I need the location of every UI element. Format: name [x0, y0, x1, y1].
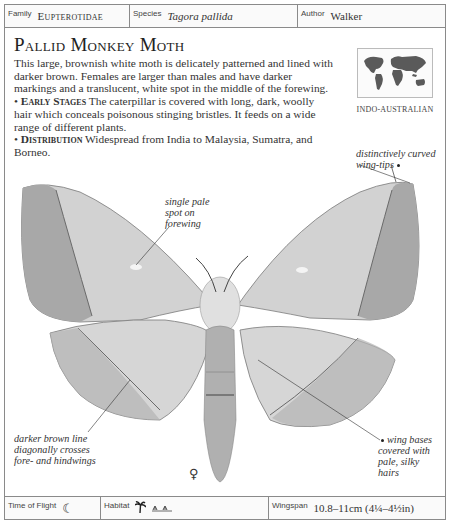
annotation-pale-spot: single pale spot on forewing — [165, 196, 225, 229]
annotation-dot — [381, 439, 384, 442]
annotation-wing-bases-text: wing bases covered with pale, silky hair… — [378, 434, 432, 478]
female-symbol: ♀ — [189, 466, 199, 481]
annotation-wing-bases: wing bases covered with pale, silky hair… — [378, 434, 440, 478]
annotation-brown-line-text: darker brown line diagonally crosses for… — [14, 433, 96, 466]
annotation-wing-tips-text: distinctively curved wing-tips — [356, 148, 436, 170]
annotation-dot — [397, 164, 400, 167]
annotation-brown-line: darker brown line diagonally crosses for… — [14, 433, 96, 466]
annotation-wing-tips: distinctively curved wing-tips — [356, 148, 446, 170]
annotation-pale-spot-text: single pale spot on forewing — [165, 196, 209, 229]
